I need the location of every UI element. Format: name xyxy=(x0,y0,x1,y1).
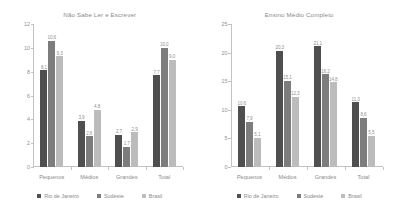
bar[interactable] xyxy=(284,81,291,167)
bar-value-label: 8,6 xyxy=(360,112,366,117)
bar-column[interactable]: 5,1 xyxy=(254,24,261,167)
bar-group: 8,110,69,3Pequenos xyxy=(33,24,71,167)
bar-column[interactable]: 1,7 xyxy=(123,24,130,167)
bar-value-label: 5,5 xyxy=(368,130,374,135)
y-axis-tick-label: 10 xyxy=(207,107,228,113)
legend-label: Rio de Janeiro xyxy=(244,193,279,199)
legend-label: Sudeste xyxy=(304,193,324,199)
bar-column[interactable]: 9,3 xyxy=(56,24,63,167)
bar[interactable] xyxy=(368,136,375,167)
bar-column[interactable]: 12,3 xyxy=(292,24,299,167)
bar-column[interactable]: 14,8 xyxy=(330,24,337,167)
x-axis-tick-mark xyxy=(307,167,308,170)
bar[interactable] xyxy=(276,51,283,167)
bar-group: 7,710,09,0Total xyxy=(146,24,184,167)
bar-column[interactable]: 8,6 xyxy=(360,24,367,167)
x-axis-tick-mark xyxy=(71,167,72,170)
bar[interactable] xyxy=(238,106,245,167)
y-axis-tick-label: 0 xyxy=(207,164,228,170)
bar[interactable] xyxy=(48,41,55,167)
y-axis-tick-label: 2 xyxy=(9,140,30,146)
x-axis-category-label: Grandes xyxy=(307,174,345,180)
bar-group: 3,92,64,8Médios xyxy=(71,24,109,167)
y-axis-tick-label: 20 xyxy=(207,50,228,56)
bar-column[interactable]: 15,1 xyxy=(284,24,291,167)
x-axis-tick-mark xyxy=(269,167,270,170)
bar-value-label: 7,7 xyxy=(153,70,159,75)
bar-column[interactable]: 7,7 xyxy=(153,24,160,167)
bar-column[interactable]: 16,2 xyxy=(322,24,329,167)
y-axis-tick-label: 10 xyxy=(9,45,30,51)
bar-group: 11,38,65,5Total xyxy=(345,24,383,167)
legend-label: Sudeste xyxy=(104,193,124,199)
bar-column[interactable]: 3,9 xyxy=(78,24,85,167)
bar-value-label: 2,9 xyxy=(132,127,138,132)
bar-value-label: 9,0 xyxy=(169,54,175,59)
bar-column[interactable]: 9,0 xyxy=(169,24,176,167)
bar[interactable] xyxy=(314,46,321,167)
y-axis-tick-label: 5 xyxy=(207,135,228,141)
bar-value-label: 10,6 xyxy=(47,35,56,40)
bar-value-label: 21,1 xyxy=(313,41,322,46)
bar[interactable] xyxy=(352,102,359,167)
bar[interactable] xyxy=(94,110,101,167)
chart-page: Não Sabe Ler e Escrever 0246810128,110,6… xyxy=(0,0,399,212)
y-axis-tick-label: 0 xyxy=(9,164,30,170)
bar-column[interactable]: 10,0 xyxy=(161,24,168,167)
bar[interactable] xyxy=(254,138,261,167)
bar[interactable] xyxy=(161,48,168,167)
bar[interactable] xyxy=(131,132,138,167)
bar-value-label: 12,3 xyxy=(291,91,300,96)
bar-value-label: 5,1 xyxy=(254,132,260,137)
bar[interactable] xyxy=(56,56,63,167)
bar-column[interactable]: 2,9 xyxy=(131,24,138,167)
x-axis-category-label: Pequenos xyxy=(231,174,269,180)
bar-column[interactable]: 2,7 xyxy=(115,24,122,167)
x-axis-category-label: Total xyxy=(146,174,184,180)
bar[interactable] xyxy=(78,121,85,167)
bar-value-label: 7,9 xyxy=(246,116,252,121)
legend-left: Rio de Janeiro Sudeste Brasil xyxy=(0,193,200,199)
y-axis-tick-label: 8 xyxy=(9,69,30,75)
x-axis-tick-mark xyxy=(146,167,147,170)
bar[interactable] xyxy=(153,75,160,167)
x-axis-tick-mark xyxy=(345,167,346,170)
bar[interactable] xyxy=(40,70,47,167)
bar-column[interactable]: 21,1 xyxy=(314,24,321,167)
y-axis-tick-label: 25 xyxy=(207,21,228,27)
x-axis-category-label: Médios xyxy=(269,174,307,180)
chart-panel-nao-sabe-ler-escrever: Não Sabe Ler e Escrever 0246810128,110,6… xyxy=(0,0,200,212)
bar[interactable] xyxy=(246,122,253,167)
bar-column[interactable]: 10,6 xyxy=(48,24,55,167)
bar-column[interactable]: 20,3 xyxy=(276,24,283,167)
bar[interactable] xyxy=(292,97,299,167)
bar-column[interactable]: 7,9 xyxy=(246,24,253,167)
x-axis-category-label: Médios xyxy=(71,174,109,180)
bar-group: 20,315,112,3Médios xyxy=(269,24,307,167)
x-axis-category-label: Total xyxy=(345,174,383,180)
bar[interactable] xyxy=(115,135,122,167)
legend-item: Sudeste xyxy=(297,193,324,199)
plot-area-right: 051015202510,67,95,1Pequenos20,315,112,3… xyxy=(231,24,383,167)
bar-column[interactable]: 11,3 xyxy=(352,24,359,167)
legend-label: Brasil xyxy=(348,193,361,199)
y-axis-tick-mark xyxy=(228,167,231,168)
chart-title: Ensino Médio Completo xyxy=(200,11,399,18)
bar[interactable] xyxy=(330,82,337,167)
bar[interactable] xyxy=(123,147,130,167)
legend-right: Rio de Janeiro Sudeste Brasil xyxy=(200,193,399,199)
bar-column[interactable]: 10,6 xyxy=(238,24,245,167)
bar-column[interactable]: 4,8 xyxy=(94,24,101,167)
bar[interactable] xyxy=(360,118,367,167)
bar-column[interactable]: 8,1 xyxy=(40,24,47,167)
bar-column[interactable]: 2,6 xyxy=(86,24,93,167)
bar[interactable] xyxy=(169,60,176,167)
y-axis-tick-label: 12 xyxy=(9,21,30,27)
legend-swatch-icon xyxy=(341,194,345,198)
bar[interactable] xyxy=(322,74,329,167)
bar[interactable] xyxy=(86,136,93,167)
y-axis-tick-label: 6 xyxy=(9,93,30,99)
y-axis-tick-mark xyxy=(31,167,34,168)
bar-value-label: 16,2 xyxy=(321,69,330,74)
bar-column[interactable]: 5,5 xyxy=(368,24,375,167)
